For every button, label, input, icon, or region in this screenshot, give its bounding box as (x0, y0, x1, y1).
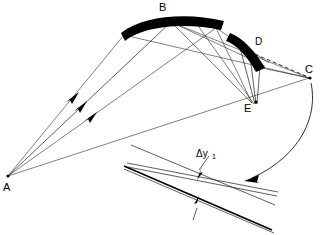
ray-arrowhead-1 (66, 92, 79, 104)
label-d: D (255, 36, 262, 47)
reflected-ray-bundle (124, 22, 309, 104)
point-e-marker (255, 101, 258, 104)
ray-arrowhead-3 (84, 112, 97, 123)
ray-diagram-figure: A B C D E Δy 1 (0, 0, 320, 235)
ray-a-to-mirror-b-vertex (8, 22, 171, 176)
label-b: B (159, 1, 166, 13)
diagram-canvas: A B C D E Δy 1 (0, 0, 320, 235)
ray-a-to-c-long (8, 78, 309, 176)
point-c-marker (308, 76, 311, 79)
ray-arrowhead-2 (74, 101, 87, 113)
ray-d-bottom-to-c (262, 68, 309, 78)
label-c: C (305, 63, 313, 75)
callout-arrowhead (244, 175, 259, 183)
ray-b-left-to-c (124, 35, 309, 78)
ray-a-to-mirror-b-right (8, 28, 216, 176)
label-a: A (3, 181, 11, 193)
delta-leader-lower (193, 208, 197, 220)
callout-curve (252, 83, 313, 178)
delta-y-subscript: 1 (212, 153, 216, 160)
ray-b-vertex-to-e (171, 22, 252, 103)
ray-d-low-to-e (257, 66, 260, 104)
point-a-marker (6, 174, 9, 177)
delta-y-label: Δy (196, 148, 208, 159)
label-e: E (244, 102, 251, 114)
magnified-inset: Δy 1 (124, 145, 278, 233)
ray-bundle-from-a (8, 22, 309, 176)
